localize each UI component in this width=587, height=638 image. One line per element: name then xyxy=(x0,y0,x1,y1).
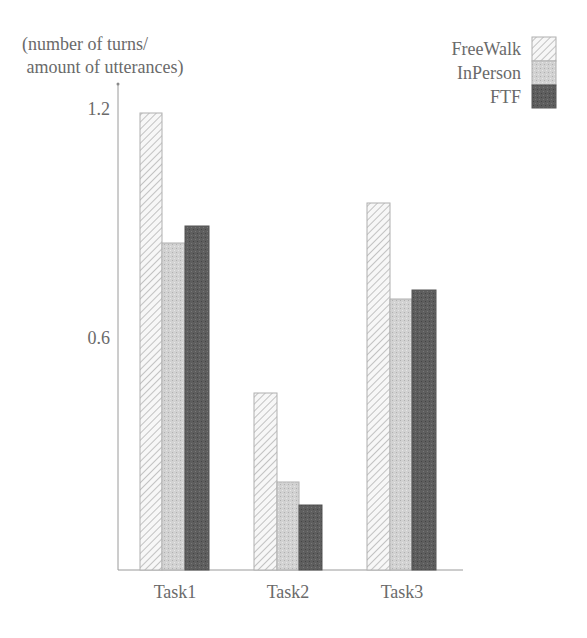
bar-task2-freewalk xyxy=(254,393,277,570)
bar-task2-inperson xyxy=(277,482,299,570)
y-tick-0-6: 0.6 xyxy=(60,328,110,349)
legend-label-ftf: FTF xyxy=(401,85,521,109)
x-label-task1: Task1 xyxy=(135,582,215,603)
legend-label-inperson: InPerson xyxy=(401,61,521,85)
legend-swatch-ftf xyxy=(532,85,556,108)
x-label-task3: Task3 xyxy=(362,582,442,603)
legend-label-freewalk: FreeWalk xyxy=(401,37,521,61)
bar-task3-freewalk xyxy=(367,203,390,570)
legend-swatch-inperson xyxy=(532,61,556,85)
bar-task3-ftf xyxy=(412,290,436,570)
bar-task3-inperson xyxy=(390,299,412,570)
bar-task1-freewalk xyxy=(140,113,162,570)
x-label-task2: Task2 xyxy=(248,582,328,603)
legend-swatch-freewalk xyxy=(532,37,556,61)
y-tick-1-2: 1.2 xyxy=(60,99,110,120)
bar-task1-inperson xyxy=(162,243,185,570)
bar-task2-ftf xyxy=(299,505,322,570)
bar-task1-ftf xyxy=(185,226,209,570)
